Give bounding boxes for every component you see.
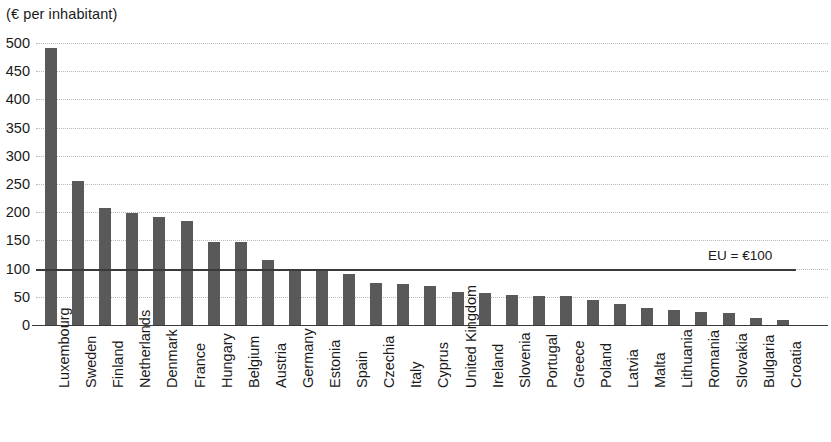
x-axis-tick-label: Slovenia: [518, 374, 532, 388]
bar[interactable]: [587, 300, 599, 325]
x-axis-tick-label-text: Czechia: [382, 336, 396, 388]
bar[interactable]: [479, 293, 491, 325]
x-axis-tick-label-text: Slovenia: [518, 332, 532, 388]
x-axis-tick-label-text: Germany: [301, 328, 315, 388]
bar[interactable]: [506, 295, 518, 325]
y-axis-tick-label: 250: [0, 177, 30, 192]
x-axis-tick-label-text: Slovakia: [735, 333, 749, 388]
x-axis-tick-label: Malta: [653, 374, 667, 388]
x-axis-tick-label: Croatia: [789, 374, 803, 388]
bar[interactable]: [343, 274, 355, 325]
x-axis-tick-label: Spain: [355, 374, 369, 388]
bar[interactable]: [614, 304, 626, 325]
bar[interactable]: [452, 292, 464, 325]
x-axis-tick-label: Netherlands: [138, 374, 152, 388]
x-axis-tick-label: France: [193, 374, 207, 388]
x-axis-tick-label: Greece: [572, 374, 586, 388]
y-axis-tick-label: 200: [0, 205, 30, 220]
x-axis-tick-label-text: Netherlands: [138, 310, 152, 388]
x-axis-tick-label-text: United Kingdom: [464, 285, 478, 388]
bar[interactable]: [208, 242, 220, 325]
x-axis-tick-label-text: Italy: [409, 361, 423, 388]
x-axis-tick-label-text: Malta: [653, 353, 667, 388]
y-axis-tick-label: 500: [0, 36, 30, 51]
x-axis-tick-label-text: Sweden: [84, 336, 98, 388]
x-axis-tick-label: Belgium: [247, 374, 261, 388]
bar[interactable]: [777, 320, 789, 325]
plot-area: 050100150200250300350400450500Luxembourg…: [36, 43, 828, 325]
x-axis-tick-label-text: Ireland: [491, 344, 505, 388]
x-axis-tick-label: Hungary: [220, 374, 234, 388]
bar[interactable]: [99, 208, 111, 325]
x-axis-tick-label-text: Croatia: [789, 341, 803, 388]
bar[interactable]: [397, 284, 409, 325]
x-axis-tick-label: Ireland: [491, 374, 505, 388]
bar-chart-figure: (€ per inhabitant) 050100150200250300350…: [0, 0, 831, 442]
bar[interactable]: [641, 308, 653, 325]
y-axis-tick-label: 100: [0, 262, 30, 277]
x-axis-tick-label-text: Greece: [572, 340, 586, 388]
x-axis-tick-label-text: Hungary: [220, 333, 234, 388]
gridline: [36, 184, 828, 185]
x-axis-tick-label-text: Latvia: [626, 349, 640, 388]
bar[interactable]: [533, 296, 545, 325]
bar[interactable]: [316, 269, 328, 325]
x-axis-tick-label-text: Estonia: [328, 340, 342, 388]
x-axis-tick-label-text: Spain: [355, 351, 369, 388]
bar[interactable]: [668, 310, 680, 325]
x-axis-tick-label-text: Finland: [111, 340, 125, 388]
bar[interactable]: [72, 181, 84, 325]
bar[interactable]: [723, 313, 735, 325]
bar[interactable]: [695, 312, 707, 325]
gridline: [36, 212, 828, 213]
gridline: [36, 43, 828, 44]
bar[interactable]: [153, 217, 165, 325]
y-axis-tick-label: 400: [0, 92, 30, 107]
x-axis-tick-label-text: Lithuania: [680, 329, 694, 388]
x-axis-tick-label: Italy: [409, 374, 423, 388]
x-axis-tick-label-text: France: [193, 343, 207, 388]
x-axis-tick-label-text: Romania: [707, 330, 721, 388]
bar[interactable]: [235, 242, 247, 325]
gridline: [36, 156, 828, 157]
x-axis-tick-label: Estonia: [328, 374, 342, 388]
bar[interactable]: [181, 221, 193, 325]
bar[interactable]: [45, 48, 57, 325]
x-axis-tick-label: Sweden: [84, 374, 98, 388]
y-axis-tick-label: 150: [0, 233, 30, 248]
x-axis-tick-label-text: Belgium: [247, 336, 261, 388]
x-axis-tick-label-text: Austria: [274, 343, 288, 388]
eu-reference-line-label: EU = €100: [708, 249, 772, 263]
x-axis-tick-label: United Kingdom: [464, 374, 478, 388]
x-axis-tick-label: Germany: [301, 374, 315, 388]
x-axis-tick-label: Luxembourg: [57, 374, 71, 388]
x-axis-tick-label: Czechia: [382, 374, 396, 388]
x-axis-tick-label: Denmark: [165, 374, 179, 388]
x-axis-tick-label-text: Portugal: [545, 334, 559, 388]
x-axis-tick-label: Slovakia: [735, 374, 749, 388]
y-axis-tick-label: 0: [0, 318, 30, 333]
x-axis-tick-label: Austria: [274, 374, 288, 388]
gridline: [36, 128, 828, 129]
y-axis-tick-label: 450: [0, 64, 30, 79]
y-axis-tick-label: 50: [0, 290, 30, 305]
x-axis-tick-label: Romania: [707, 374, 721, 388]
x-axis-tick-label: Portugal: [545, 374, 559, 388]
gridline: [36, 71, 828, 72]
x-axis-tick-label: Cyprus: [436, 374, 450, 388]
x-axis-tick-label: Latvia: [626, 374, 640, 388]
x-axis-tick-label: Poland: [599, 374, 613, 388]
bar[interactable]: [289, 269, 301, 325]
x-axis-tick-label-text: Cyprus: [436, 342, 450, 388]
bar[interactable]: [370, 283, 382, 325]
eu-reference-line: [36, 269, 796, 271]
y-axis-tick-label: 350: [0, 121, 30, 136]
x-axis-tick-label: Finland: [111, 374, 125, 388]
bar[interactable]: [750, 318, 762, 325]
x-axis-tick-label-text: Poland: [599, 343, 613, 388]
y-axis-tick-label: 300: [0, 149, 30, 164]
x-axis-tick-label: Lithuania: [680, 374, 694, 388]
bar[interactable]: [560, 296, 572, 325]
bar[interactable]: [424, 286, 436, 325]
axis-unit-label: (€ per inhabitant): [6, 6, 117, 23]
